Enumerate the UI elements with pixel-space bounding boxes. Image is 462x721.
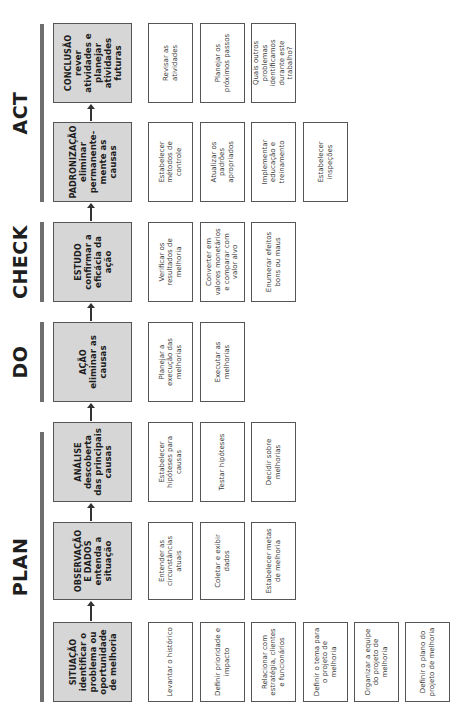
step-title: PADRONIZAÇÃO [68, 125, 78, 198]
task-box: Revisar as atividades [148, 23, 193, 103]
pdca-diagram: PLAN DO CHECK ACT SITUAÇÃO identificar o… [0, 0, 462, 721]
step-description: descoberta das principais causas [83, 426, 113, 498]
arrow-icon [90, 507, 92, 521]
task-box: Organizar a equipe do projeto de melhori… [354, 622, 399, 702]
task-box: Planejar a execução das melhorias [148, 322, 193, 402]
step-description: entenda a situação [93, 526, 113, 596]
task-box: Coletar e exibir dados [200, 522, 245, 600]
task-box: Estabelecer metas de melhoria [251, 522, 296, 600]
task-box: Estabelecer hipóteses para causas [148, 422, 193, 502]
task-box: Executar as melhorias [200, 322, 245, 402]
task-box: Implementar educação e treinamento [251, 122, 296, 202]
phase-divider-do [40, 322, 44, 402]
phase-label-check: CHECK [0, 222, 40, 302]
step-title: ANÁLISE [73, 442, 83, 481]
task-box: Levantar o histórico [148, 622, 193, 702]
step-description: identificar o problema ou oportunidade d… [78, 626, 118, 698]
step-conclusao: CONCLUSÃO rever atividades e planejar at… [53, 23, 132, 103]
task-box: Testar hipóteses [200, 422, 245, 502]
step-description: confirmar a eficácia da ação [83, 226, 113, 298]
task-box: Atualizar os padrões apropriados [200, 122, 245, 202]
step-padronizacao: PADRONIZAÇÃO eliminar permanente-mente a… [53, 122, 132, 202]
arrow-icon [90, 307, 92, 321]
step-title: SITUAÇÃO [68, 639, 78, 686]
task-box: Definir prioridade e impacto [200, 622, 245, 702]
step-description: eliminar as causas [88, 326, 108, 398]
step-title: OBSERVAÇÃO E DADOS [73, 526, 93, 596]
step-situacao: SITUAÇÃO identificar o problema ou oport… [53, 622, 132, 702]
phase-label-plan: PLAN [0, 432, 40, 702]
task-box: Definir o plano do projeto de melhoria [405, 622, 450, 702]
task-box: Quais outros problemas identificamos dur… [251, 23, 296, 103]
phase-divider-check [40, 222, 44, 302]
step-title: CONCLUSÃO [63, 35, 73, 92]
step-description: rever atividades e planejar atividades f… [73, 27, 123, 99]
task-box: Entender as circunstâncias atuais [148, 522, 193, 600]
arrow-icon [90, 108, 92, 121]
phase-divider-act [40, 24, 44, 202]
step-title: AÇÃO [78, 349, 88, 375]
arrow-icon [90, 407, 92, 421]
task-box: Definir o tema para o projeto de melhori… [303, 622, 348, 702]
task-box: Decidir sobre melhorias [251, 422, 296, 502]
step-acao: AÇÃO eliminar as causas [53, 322, 132, 402]
task-box: Planejar os próximos passos [200, 23, 245, 103]
phase-divider-plan [40, 432, 44, 702]
phase-label-do: DO [0, 322, 40, 402]
task-box: Relacionar com estratégia, clientes e fu… [251, 622, 296, 702]
step-analise: ANÁLISE descoberta das principais causas [53, 422, 132, 502]
task-box: Converter em valores monetários e compar… [200, 222, 245, 302]
step-estudo: ESTUDO confirmar a eficácia da ação [53, 222, 132, 302]
arrow-icon [90, 605, 92, 621]
task-box: Estabelecer inspeções [303, 122, 348, 202]
step-title: ESTUDO [73, 243, 83, 280]
task-box: Enumerar efeitos bons ou maus [251, 222, 296, 302]
step-observacao: OBSERVAÇÃO E DADOS entenda a situação [53, 522, 132, 600]
step-description: eliminar permanente-mente as causas [78, 126, 118, 198]
arrow-icon [90, 207, 92, 221]
task-box: Verificar os resultados de melhoria [148, 222, 193, 302]
phase-label-act: ACT [0, 24, 40, 202]
task-box: Estabelecer métodos de controle [148, 122, 193, 202]
